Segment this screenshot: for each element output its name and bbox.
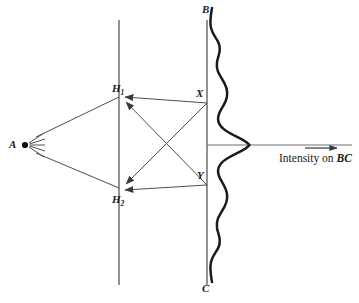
label-point-x: X [196, 88, 203, 99]
intensity-caption-emphasis: BC [337, 152, 352, 164]
ray-h2-to-y [125, 185, 207, 190]
label-slit-h1: H1 [112, 83, 124, 97]
label-source-a: A [9, 139, 16, 150]
interference-diagram: A H1 H2 X Y B C Intensity on BC [0, 0, 359, 303]
label-screen-bottom-c: C [202, 283, 209, 294]
incident-ray-a-to-h1 [36, 97, 119, 137]
label-slit-h2-subscript: 2 [121, 199, 125, 208]
label-point-y: Y [197, 170, 204, 181]
label-slit-h2-base: H [112, 193, 121, 205]
label-slit-h1-subscript: 1 [121, 88, 125, 97]
ray-h2-to-x [126, 103, 207, 184]
label-slit-h1-base: H [112, 82, 121, 94]
label-screen-top-b: B [202, 4, 209, 15]
incident-ray-a-to-h2 [36, 153, 119, 188]
intensity-caption: Intensity on BC [279, 153, 352, 165]
label-slit-h2: H2 [112, 194, 124, 208]
intensity-caption-prefix: Intensity on [279, 152, 337, 164]
source-point-a [22, 142, 28, 148]
ray-h1-to-x [125, 97, 207, 103]
